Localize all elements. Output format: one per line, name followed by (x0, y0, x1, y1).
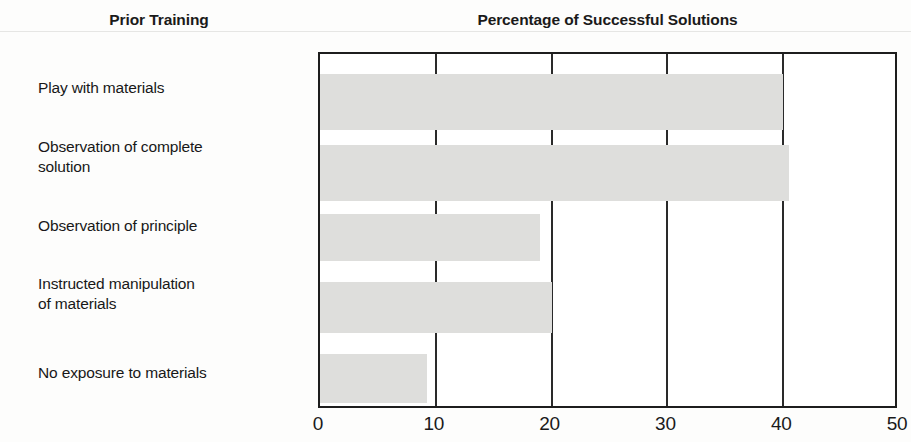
bar (320, 282, 552, 333)
plot-area (318, 52, 897, 408)
x-axis-tick-label: 20 (520, 413, 580, 435)
category-label: Instructed manipulationof materials (38, 274, 300, 314)
x-axis-tick-label: 0 (288, 413, 348, 435)
bar-series (320, 54, 895, 406)
x-axis-tick-label: 10 (404, 413, 464, 435)
bar (320, 145, 789, 201)
chart-title: Percentage of Successful Solutions (318, 11, 897, 29)
bar (320, 354, 427, 403)
category-label: No exposure to materials (38, 363, 300, 383)
category-label: Observation of principle (38, 216, 300, 236)
x-axis-tick-label: 50 (867, 413, 911, 435)
category-label: Play with materials (38, 78, 300, 98)
x-axis-tick-label: 40 (751, 413, 811, 435)
bar (320, 214, 540, 261)
horizontal-rule-divider (0, 31, 911, 32)
bar (320, 74, 783, 130)
x-axis-tick-labels: 01020304050 (0, 409, 911, 442)
x-axis-tick-label: 30 (635, 413, 695, 435)
category-label-column: Play with materialsObservation of comple… (0, 52, 300, 408)
category-label: Observation of completesolution (38, 137, 300, 177)
category-column-heading: Prior Training (44, 11, 274, 29)
